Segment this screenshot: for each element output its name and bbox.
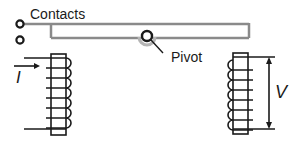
voltage-label: V — [275, 83, 287, 101]
pivot-icon — [139, 31, 163, 53]
contacts-label: Contacts — [30, 7, 85, 21]
input-coil-icon — [14, 54, 71, 135]
current-label: I — [16, 69, 21, 86]
contacts-icon — [16, 20, 23, 43]
output-coil-icon — [228, 53, 275, 134]
armature-bar — [23, 23, 249, 38]
contact-bottom — [16, 36, 23, 43]
pivot-label: Pivot — [171, 50, 202, 64]
relay-diagram: Contacts Pivot I V — [0, 0, 296, 144]
contact-top — [16, 20, 23, 27]
